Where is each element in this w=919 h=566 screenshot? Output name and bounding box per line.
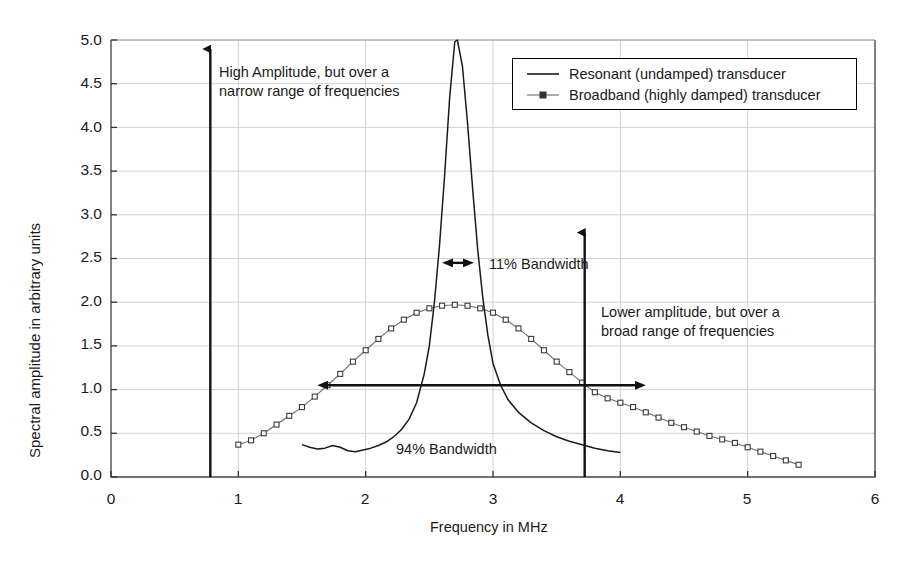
y-tick-label: 0.0	[58, 466, 102, 484]
x-tick-label: 2	[350, 490, 380, 508]
x-tick-label: 6	[860, 490, 890, 508]
y-tick-label: 2.0	[58, 292, 102, 310]
y-axis-label: Spectral amplitude in arbitrary units	[26, 223, 43, 458]
y-tick-label: 3.5	[58, 161, 102, 179]
y-tick-label: 3.0	[58, 205, 102, 223]
broad-bandwidth-label: 94% Bandwidth	[396, 440, 497, 459]
y-tick-label: 1.5	[58, 335, 102, 353]
x-tick-label: 0	[96, 490, 126, 508]
high-amplitude-annotation-line1: High Amplitude, but over a	[219, 63, 389, 82]
y-tick-label: 5.0	[58, 31, 102, 49]
y-tick-label: 2.5	[58, 248, 102, 266]
x-tick-label: 3	[478, 490, 508, 508]
lower-amplitude-annotation-line1: Lower amplitude, but over a	[601, 303, 780, 322]
y-tick-label: 4.0	[58, 118, 102, 136]
x-tick-label: 4	[605, 490, 635, 508]
x-axis-label: Frequency in MHz	[430, 519, 548, 535]
x-tick-label: 5	[732, 490, 762, 508]
y-tick-label: 1.0	[58, 379, 102, 397]
legend-item-resonant-label: Resonant (undamped) transducer	[569, 66, 786, 82]
narrow-bandwidth-label: 11% Bandwidth	[489, 255, 589, 274]
high-amplitude-annotation-line2: narrow range of frequencies	[219, 82, 400, 101]
x-tick-label: 1	[223, 490, 253, 508]
y-tick-label: 0.5	[58, 422, 102, 440]
legend: Resonant (undamped) transducer Broadband…	[512, 58, 857, 110]
spectral-amplitude-chart: Spectral amplitude in arbitrary units Fr…	[0, 0, 919, 566]
legend-item-broadband-label: Broadband (highly damped) transducer	[569, 87, 820, 103]
y-tick-label: 4.5	[58, 74, 102, 92]
lower-amplitude-annotation-line2: broad range of frequencies	[601, 322, 774, 341]
